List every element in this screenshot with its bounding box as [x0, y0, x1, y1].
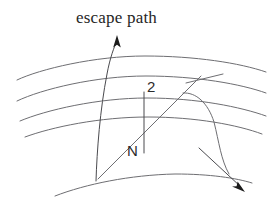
diagram-canvas: [0, 0, 270, 206]
escape-path-arrowhead: [113, 35, 121, 48]
layer-arc-base: [55, 174, 252, 196]
page-title: escape path: [76, 9, 157, 26]
layer-arc-2: [17, 76, 266, 101]
escape-path-curve: [96, 41, 117, 181]
outgoing-ray: [199, 148, 241, 187]
figure-root: escape path 2 N: [0, 0, 270, 206]
normal-vector-label: N: [127, 143, 138, 158]
layer-number-label: 2: [147, 79, 155, 94]
outgoing-ray-arrowhead: [232, 181, 245, 192]
layer-arc-3: [20, 98, 266, 121]
